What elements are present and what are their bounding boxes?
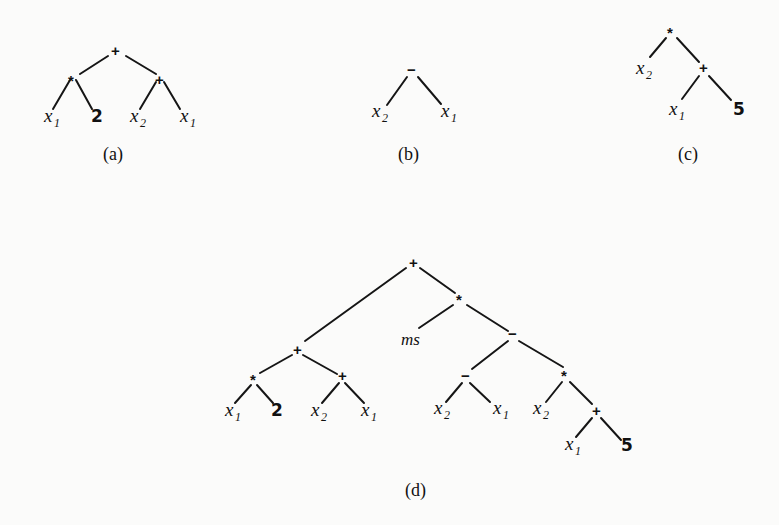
svg-text:x: x bbox=[668, 98, 678, 119]
svg-text:x: x bbox=[433, 397, 443, 418]
svg-text:x: x bbox=[440, 100, 450, 121]
node-b-root-minus: − bbox=[407, 61, 416, 78]
leaf-a-x2: x2 bbox=[129, 105, 146, 130]
leaf-b-x1: x1 bbox=[440, 100, 457, 125]
svg-text:1: 1 bbox=[679, 109, 685, 123]
leaf-c-x1: x1 bbox=[668, 98, 685, 123]
leaf-d-ms: ms bbox=[401, 330, 420, 349]
svg-text:2: 2 bbox=[140, 116, 146, 130]
leaf-d-x1-c: x1 bbox=[492, 397, 509, 422]
node-d-left-plus: + bbox=[293, 341, 302, 358]
node-a-root-plus: + bbox=[111, 42, 120, 59]
svg-text:x: x bbox=[532, 397, 542, 418]
svg-text:1: 1 bbox=[54, 116, 60, 130]
tree-a: + * + x1 2 x2 x1 (a) bbox=[43, 42, 196, 165]
leaf-c-5: 5 bbox=[733, 99, 745, 119]
node-a-plus: + bbox=[155, 71, 164, 88]
expression-tree-figure: + * + x1 2 x2 x1 (a) − x2 x1 (b) * + bbox=[0, 0, 779, 525]
node-d-inner-minus: − bbox=[461, 367, 470, 384]
svg-text:x: x bbox=[129, 105, 139, 126]
caption-a: (a) bbox=[103, 144, 123, 165]
svg-text:1: 1 bbox=[503, 408, 509, 422]
svg-text:2: 2 bbox=[382, 111, 388, 125]
svg-text:x: x bbox=[360, 399, 370, 420]
tree-d: + * ms − + * + x1 2 x2 x1 − x2 x1 * x2 +… bbox=[224, 254, 633, 501]
node-d-inner-times: * bbox=[561, 367, 567, 384]
svg-text:x: x bbox=[635, 57, 645, 78]
leaf-d-5: 5 bbox=[621, 435, 633, 455]
svg-text:1: 1 bbox=[235, 410, 241, 424]
leaf-d-x1-d: x1 bbox=[564, 433, 581, 458]
svg-text:1: 1 bbox=[190, 116, 196, 130]
node-d-root-plus: + bbox=[409, 254, 418, 271]
svg-text:x: x bbox=[564, 433, 574, 454]
leaf-a-x1-left: x1 bbox=[43, 105, 60, 130]
node-d-left-times: * bbox=[250, 371, 256, 388]
tree-c: * + x2 x1 5 (c) bbox=[635, 24, 745, 165]
tree-b: − x2 x1 (b) bbox=[371, 61, 457, 165]
leaf-a-x1-right: x1 bbox=[179, 105, 196, 130]
svg-text:1: 1 bbox=[371, 410, 377, 424]
node-c-root-times: * bbox=[667, 24, 673, 41]
leaf-a-2: 2 bbox=[91, 106, 103, 126]
node-d-inner-plus: + bbox=[592, 402, 601, 419]
svg-text:1: 1 bbox=[575, 444, 581, 458]
caption-d: (d) bbox=[405, 480, 426, 501]
leaf-c-x2: x2 bbox=[635, 57, 652, 82]
svg-text:2: 2 bbox=[646, 68, 652, 82]
node-d-times: * bbox=[456, 291, 462, 308]
svg-text:2: 2 bbox=[543, 408, 549, 422]
svg-text:1: 1 bbox=[451, 111, 457, 125]
leaf-d-x1-a: x1 bbox=[224, 399, 241, 424]
node-a-times: * bbox=[68, 72, 74, 89]
svg-text:2: 2 bbox=[321, 410, 327, 424]
leaf-b-x2: x2 bbox=[371, 100, 388, 125]
leaf-d-2: 2 bbox=[271, 400, 283, 420]
svg-text:x: x bbox=[371, 100, 381, 121]
node-c-plus: + bbox=[699, 59, 708, 76]
svg-text:2: 2 bbox=[444, 408, 450, 422]
svg-text:x: x bbox=[310, 399, 320, 420]
node-d-minus: − bbox=[508, 325, 517, 342]
leaf-d-x1-b: x1 bbox=[360, 399, 377, 424]
svg-text:x: x bbox=[43, 105, 53, 126]
node-d-left-inner-plus: + bbox=[338, 367, 347, 384]
svg-text:x: x bbox=[224, 399, 234, 420]
leaf-d-x2-a: x2 bbox=[310, 399, 327, 424]
svg-text:x: x bbox=[179, 105, 189, 126]
svg-text:x: x bbox=[492, 397, 502, 418]
caption-c: (c) bbox=[678, 144, 698, 165]
caption-b: (b) bbox=[398, 144, 419, 165]
